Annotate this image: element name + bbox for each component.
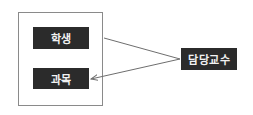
- edge-student-professor: [104, 38, 180, 59]
- node-student-label: 학생: [51, 30, 72, 46]
- node-professor: 담당교수: [181, 48, 237, 70]
- node-professor-label: 담당교수: [188, 51, 230, 67]
- node-course: 과목: [33, 68, 89, 89]
- edge-professor-course: [91, 59, 180, 79]
- node-course-label: 과목: [51, 71, 72, 87]
- node-student: 학생: [33, 27, 89, 49]
